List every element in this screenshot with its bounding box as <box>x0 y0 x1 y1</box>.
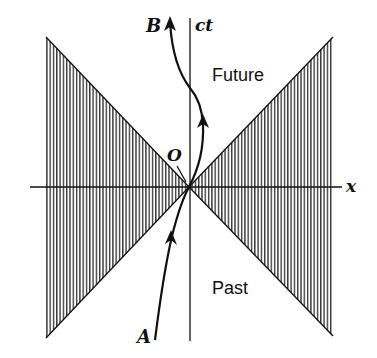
origin-label: O <box>167 145 182 165</box>
future-region-label: Future <box>212 65 264 85</box>
point-a-label: A <box>135 326 151 347</box>
x-axis-label: x <box>345 176 357 196</box>
past-region-label: Past <box>212 278 248 298</box>
ct-axis-label: ct <box>195 15 213 35</box>
point-b-label: B <box>145 15 161 36</box>
light-cone-diagram: ct x B A O Future Past <box>0 0 377 358</box>
origin-dot <box>187 185 191 189</box>
